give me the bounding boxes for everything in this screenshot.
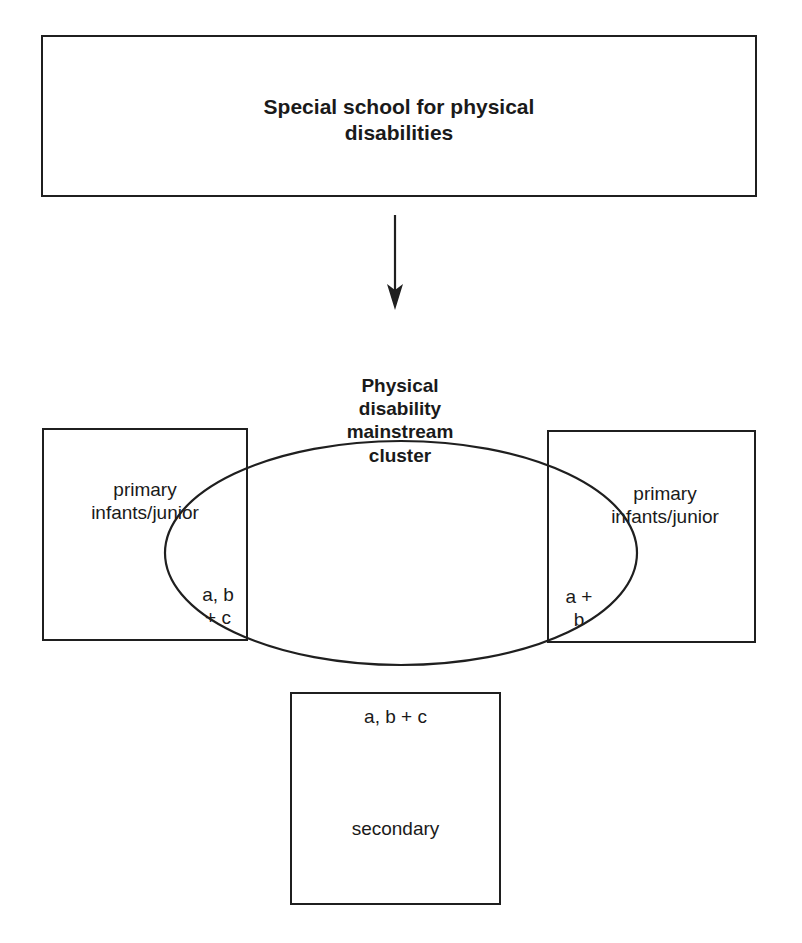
diagram-canvas: Special school for physical disabilities…: [0, 0, 802, 943]
special-school-label: Special school for physical disabilities: [41, 94, 757, 145]
right-overlap-label: a + b: [553, 585, 605, 631]
cluster-label: Physical disability mainstream cluster: [300, 374, 500, 467]
left-primary-school-label: primary infants/junior: [42, 478, 248, 524]
right-primary-school-label: primary infants/junior: [580, 482, 750, 528]
secondary-overlap-label: a, b + c: [290, 705, 501, 728]
down-arrow-icon: [387, 215, 403, 310]
secondary-school-label: secondary: [290, 817, 501, 840]
left-overlap-label: a, b + c: [188, 583, 248, 629]
